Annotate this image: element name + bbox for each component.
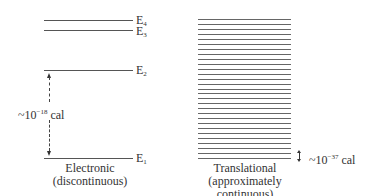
level-e3-label: E3	[136, 25, 147, 41]
level-e1-line	[44, 158, 133, 159]
electronic-gap-label: ~10−18 cal	[18, 106, 64, 121]
energy-gap-dashed-line-lower	[49, 120, 50, 151]
translational-level-line	[198, 69, 291, 70]
translational-level-line	[198, 34, 291, 35]
translational-level-line	[198, 89, 291, 90]
translational-caption: Translational (approximately continuous)	[180, 162, 310, 196]
translational-level-line	[198, 29, 291, 30]
electronic-caption-subtitle: (discontinuous)	[44, 175, 136, 188]
energy-level-diagram: E4 E3 E2 E1 ~10−18 cal Electronic (disco…	[0, 0, 371, 196]
translational-level-line	[198, 113, 291, 114]
translational-level-line	[198, 138, 291, 139]
translational-level-line	[198, 19, 291, 20]
translational-level-line	[198, 74, 291, 75]
level-e4-line	[44, 20, 133, 21]
electronic-caption: Electronic (discontinuous)	[44, 162, 136, 188]
translational-level-line	[198, 128, 291, 129]
translational-level-line	[198, 54, 291, 55]
translational-level-line	[198, 44, 291, 45]
translational-level-line	[198, 143, 291, 144]
level-e1-label: E1	[136, 152, 147, 168]
translational-level-line	[198, 64, 291, 65]
small-double-arrow-icon	[297, 150, 302, 162]
level-e2-label: E2	[136, 64, 147, 80]
translational-level-line	[198, 158, 291, 159]
level-e3-line	[44, 30, 133, 31]
translational-level-line	[198, 59, 291, 60]
translational-level-line	[198, 118, 291, 119]
level-e2-line	[44, 70, 133, 71]
translational-level-line	[198, 148, 291, 149]
translational-level-line	[198, 39, 291, 40]
translational-level-line	[198, 133, 291, 134]
translational-level-line	[198, 123, 291, 124]
translational-level-line	[198, 84, 291, 85]
arrow-down-icon	[47, 151, 51, 156]
energy-gap-dashed-line	[49, 77, 50, 102]
translational-caption-subtitle: (approximately continuous)	[180, 175, 310, 196]
translational-level-line	[198, 93, 291, 94]
translational-level-line	[198, 79, 291, 80]
translational-level-line	[198, 24, 291, 25]
translational-level-line	[198, 49, 291, 50]
translational-level-line	[198, 98, 291, 99]
translational-level-line	[198, 108, 291, 109]
translational-level-line	[198, 103, 291, 104]
translational-level-line	[198, 153, 291, 154]
translational-gap-label: ~10−37 cal	[309, 151, 355, 166]
